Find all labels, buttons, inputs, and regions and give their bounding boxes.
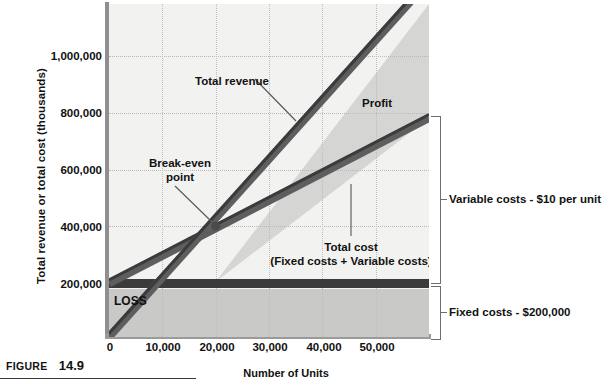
y-tick-label-1000000: 1,000,000 bbox=[30, 50, 102, 62]
loss-label: LOSS bbox=[114, 294, 147, 309]
caption-rule bbox=[0, 378, 196, 379]
x-tick-label-0: 0 bbox=[107, 341, 113, 353]
y-tick-label-200000: 200,000 bbox=[30, 278, 102, 290]
figure-number: 14.9 bbox=[59, 358, 84, 373]
x-tick-label-10000: 10,000 bbox=[145, 341, 180, 353]
x-tick-label-20000: 20,000 bbox=[199, 341, 234, 353]
y-tick-label-600000: 600,000 bbox=[30, 164, 102, 176]
x-tick-label-30000: 30,000 bbox=[252, 341, 287, 353]
y-tick-label-800000: 800,000 bbox=[30, 107, 102, 119]
x-tick-label-40000: 40,000 bbox=[306, 341, 341, 353]
total-cost-label-line1: Total cost bbox=[261, 240, 429, 254]
profit-label: Profit bbox=[362, 96, 392, 110]
fixed-costs-label: Fixed costs - $200,000 bbox=[449, 306, 570, 318]
break-even-figure: Total revenue or total cost (thousands) … bbox=[0, 0, 611, 386]
x-axis-tick-labels: 0 10,000 20,000 30,000 40,000 50,000 bbox=[0, 341, 611, 361]
y-axis-tick-labels: 1,000,000 800,000 600,000 400,000 200,00… bbox=[26, 0, 102, 386]
break-even-leader-line bbox=[175, 186, 212, 222]
x-tick-label-50000: 50,000 bbox=[359, 341, 394, 353]
break-even-marker bbox=[211, 222, 220, 231]
fixed-costs-bracket bbox=[431, 286, 441, 340]
plot-area: Total revenue Profit Break-even point To… bbox=[109, 4, 429, 337]
y-tick-label-400000: 400,000 bbox=[30, 221, 102, 233]
variable-costs-label: Variable costs - $10 per unit bbox=[449, 193, 601, 205]
break-even-label-line2: point bbox=[137, 170, 223, 184]
x-axis-title: Number of Units bbox=[196, 367, 376, 379]
figure-caption-prefix: FIGURE bbox=[6, 360, 47, 372]
total-revenue-label: Total revenue bbox=[195, 74, 269, 88]
break-even-label: Break-even point bbox=[137, 156, 223, 185]
total-cost-label: Total cost (Fixed costs + Variable costs… bbox=[261, 240, 429, 269]
break-even-label-line1: Break-even bbox=[137, 156, 223, 170]
fixed-costs-bracket-tick bbox=[440, 312, 447, 313]
variable-costs-bracket bbox=[431, 116, 441, 284]
total-cost-label-line2: (Fixed costs + Variable costs) bbox=[261, 254, 429, 268]
variable-costs-bracket-tick bbox=[440, 199, 447, 200]
figure-caption: FIGURE 14.9 bbox=[6, 358, 84, 373]
